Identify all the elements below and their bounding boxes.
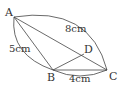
triangle-diagram: A B C D 8cm 5cm 4cm [0, 0, 123, 89]
point-b-label: B [47, 72, 55, 83]
ab-length-label: 5cm [9, 44, 30, 54]
point-a-label: A [5, 7, 13, 18]
point-c-label: C [109, 71, 117, 82]
segment-bd [53, 54, 84, 70]
bc-length-label: 4cm [69, 74, 90, 84]
point-d-label: D [84, 44, 93, 55]
ac-length-label: 8cm [65, 24, 86, 34]
